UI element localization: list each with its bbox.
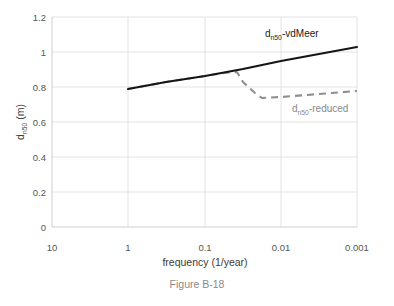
- x-axis-title: frequency (1/year): [162, 256, 247, 268]
- x-tick-label: 0.001: [345, 242, 369, 253]
- y-tick-label: 0.8: [33, 82, 46, 93]
- y-tick-label: 1: [41, 47, 46, 58]
- y-axis-title-subscript: n50: [21, 123, 28, 135]
- y-tick-label: 0.4: [33, 152, 46, 163]
- svg-text:dn50 (m): dn50 (m): [14, 104, 28, 140]
- x-tick-label: 0.1: [198, 242, 211, 253]
- x-tick-label: 10: [47, 242, 58, 253]
- series-label-subscript: n50: [271, 34, 283, 41]
- figure-caption: Figure B-18: [170, 278, 225, 290]
- x-tick-label: 0.01: [272, 242, 291, 253]
- series-label-rest: -vdMeer: [282, 28, 319, 39]
- y-tick-label: 0: [41, 222, 46, 233]
- series-label-subscript: n50: [298, 109, 310, 116]
- series-label-rest: -reduced: [309, 103, 348, 114]
- figure-b18-chart: 1.2 1 0.8 0.6 0.4 0.2 0 10 1 0.1 0.01 0.…: [0, 0, 394, 306]
- y-axis-title-unit: (m): [14, 104, 26, 123]
- y-tick-label: 1.2: [33, 12, 46, 23]
- y-tick-label: 0.2: [33, 187, 46, 198]
- x-tick-label: 1: [125, 242, 130, 253]
- y-axis-title: dn50 (m): [14, 104, 28, 140]
- y-tick-label: 0.6: [33, 117, 46, 128]
